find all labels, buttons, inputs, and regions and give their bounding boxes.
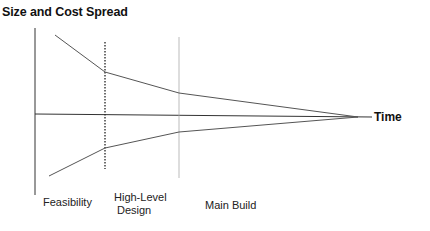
phase-high-level-design: High-Level Design <box>114 191 167 217</box>
diagram-canvas: Size and Cost Spread Time Feasibility Hi… <box>0 0 430 231</box>
lower-bound-line <box>49 117 358 176</box>
upper-bound-line <box>55 35 358 117</box>
phase-high-level-design-line1: High-Level <box>114 191 167 204</box>
phase-high-level-design-line2: Design <box>114 204 167 217</box>
phase-feasibility: Feasibility <box>43 196 92 209</box>
time-axis <box>35 114 372 117</box>
time-axis-label: Time <box>374 110 402 124</box>
phase-main-build: Main Build <box>205 199 256 212</box>
